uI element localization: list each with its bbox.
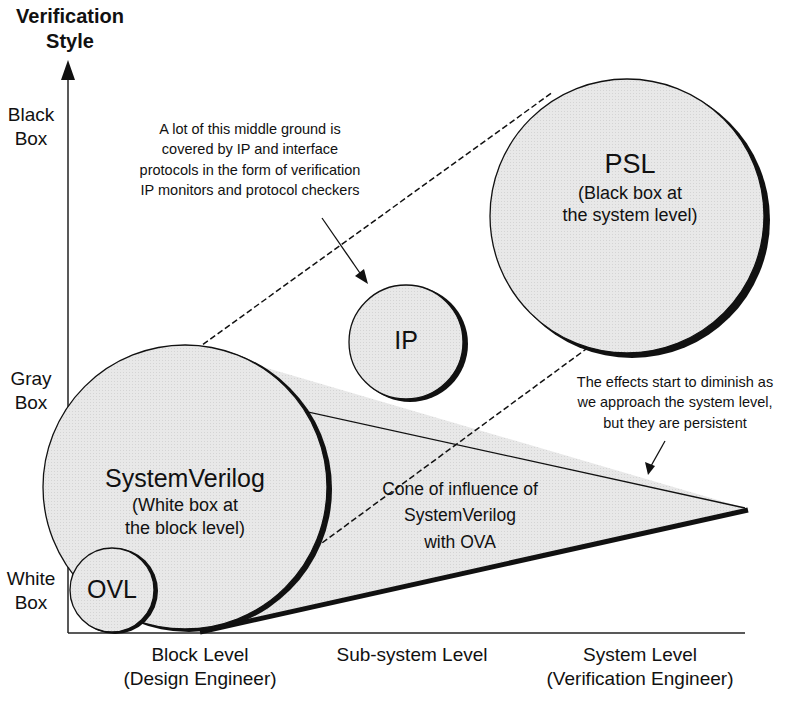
y-tick-white-box: White Box: [0, 567, 62, 615]
y-tick-label: White: [0, 567, 62, 591]
x-tick-block-level: Block Level (Design Engineer): [110, 643, 290, 691]
ovl-label: OVL: [72, 574, 152, 605]
cone-label-line: Cone of influence of: [360, 476, 560, 502]
annotation-line: IP monitors and protocol checkers: [100, 180, 400, 200]
y-axis-title: Verification Style: [10, 4, 130, 54]
x-tick-subsystem-level: Sub-system Level: [322, 643, 502, 667]
y-tick-label: Gray: [0, 367, 62, 391]
psl-subtitle: the system level): [530, 204, 730, 227]
systemverilog-subtitle: (White box at: [85, 494, 285, 517]
psl-label: PSL (Black box at the system level): [530, 148, 730, 227]
y-axis-title-line: Style: [10, 29, 130, 54]
x-tick-label: Sub-system Level: [322, 643, 502, 667]
arrow-head-icon: [355, 269, 368, 284]
annotation-line: protocols in the form of verification: [100, 160, 400, 180]
x-tick-system-level: System Level (Verification Engineer): [530, 643, 750, 691]
x-tick-label: (Design Engineer): [110, 667, 290, 691]
annotation-line: we approach the system level,: [560, 392, 790, 412]
annotation-line: but they are persistent: [560, 413, 790, 433]
systemverilog-label: SystemVerilog (White box at the block le…: [85, 463, 285, 539]
arrow-up-icon: [61, 60, 75, 80]
y-tick-label: Black: [0, 103, 62, 127]
x-tick-label: System Level: [530, 643, 750, 667]
psl-subtitle: (Black box at: [530, 182, 730, 205]
cone-label: Cone of influence of SystemVerilog with …: [360, 476, 560, 555]
y-tick-black-box: Black Box: [0, 103, 62, 151]
systemverilog-title: SystemVerilog: [85, 463, 285, 494]
cone-label-line: SystemVerilog: [360, 502, 560, 528]
psl-title: PSL: [530, 148, 730, 182]
y-tick-gray-box: Gray Box: [0, 367, 62, 415]
effects-annotation: The effects start to diminish as we appr…: [560, 372, 790, 433]
y-tick-label: Box: [0, 127, 62, 151]
x-tick-label: Block Level: [110, 643, 290, 667]
annotation-line: The effects start to diminish as: [560, 372, 790, 392]
x-tick-label: (Verification Engineer): [530, 667, 750, 691]
effects-arrow: [645, 441, 665, 475]
cone-label-line: with OVA: [360, 529, 560, 555]
systemverilog-subtitle: the block level): [85, 517, 285, 540]
y-tick-label: Box: [0, 591, 62, 615]
annotation-line: covered by IP and interface: [100, 139, 400, 159]
arrow-head-icon: [645, 462, 655, 475]
ip-label: IP: [366, 325, 446, 356]
annotation-line: A lot of this middle ground is: [100, 119, 400, 139]
y-axis-title-line: Verification: [10, 4, 130, 29]
y-tick-label: Box: [0, 391, 62, 415]
middle-ground-arrow: [322, 218, 368, 284]
middle-ground-annotation: A lot of this middle ground is covered b…: [100, 119, 400, 200]
